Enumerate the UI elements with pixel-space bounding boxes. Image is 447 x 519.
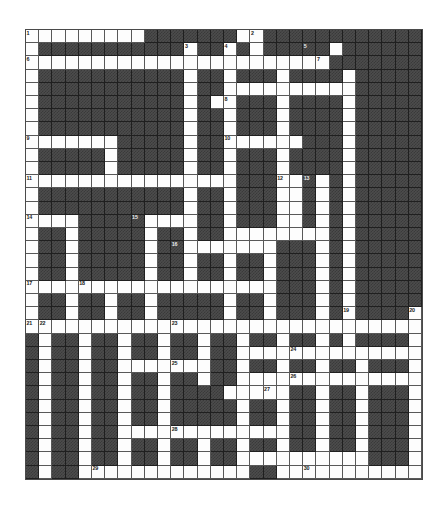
crossword-cell-open[interactable]: 9 [26, 136, 39, 149]
crossword-cell-open[interactable] [145, 426, 158, 439]
crossword-cell-open[interactable] [184, 241, 197, 254]
crossword-cell-open[interactable] [290, 215, 303, 228]
crossword-cell-open[interactable] [277, 70, 290, 83]
crossword-cell-open[interactable] [224, 202, 237, 215]
crossword-cell-open[interactable] [343, 122, 356, 135]
crossword-cell-open[interactable] [277, 334, 290, 347]
crossword-cell-open[interactable] [356, 373, 369, 386]
crossword-cell-open[interactable] [184, 360, 197, 373]
crossword-cell-open[interactable] [66, 307, 79, 320]
crossword-cell-open[interactable] [145, 254, 158, 267]
crossword-cell-open[interactable] [211, 426, 224, 439]
crossword-cell-open[interactable] [264, 254, 277, 267]
crossword-cell-open[interactable] [145, 215, 158, 228]
crossword-cell-open[interactable] [105, 136, 118, 149]
crossword-cell-open[interactable] [184, 466, 197, 479]
crossword-cell-open[interactable] [343, 202, 356, 215]
crossword-cell-open[interactable] [396, 320, 409, 333]
crossword-cell-open[interactable] [237, 56, 250, 69]
crossword-cell-open[interactable] [105, 162, 118, 175]
crossword-cell-open[interactable] [66, 228, 79, 241]
crossword-cell-open[interactable] [224, 254, 237, 267]
crossword-cell-open[interactable] [237, 360, 250, 373]
crossword-cell-open[interactable] [184, 109, 197, 122]
crossword-cell-open[interactable]: 26 [290, 373, 303, 386]
crossword-cell-open[interactable] [224, 320, 237, 333]
crossword-cell-open[interactable] [158, 281, 171, 294]
crossword-cell-open[interactable] [264, 241, 277, 254]
crossword-cell-open[interactable] [316, 334, 329, 347]
crossword-cell-open[interactable] [290, 466, 303, 479]
crossword-cell-open[interactable] [277, 96, 290, 109]
crossword-cell-open[interactable] [343, 83, 356, 96]
crossword-cell-open[interactable] [184, 83, 197, 96]
crossword-cell-open[interactable] [343, 373, 356, 386]
crossword-cell-open[interactable] [316, 241, 329, 254]
crossword-cell-open[interactable]: 8 [224, 96, 237, 109]
crossword-cell-open[interactable] [237, 83, 250, 96]
crossword-cell-open[interactable] [277, 149, 290, 162]
crossword-cell-open[interactable] [105, 466, 118, 479]
crossword-cell-open[interactable] [198, 241, 211, 254]
crossword-cell-open[interactable] [264, 56, 277, 69]
crossword-cell-open[interactable] [237, 30, 250, 43]
crossword-cell-open[interactable] [118, 56, 131, 69]
crossword-cell-open[interactable] [303, 373, 316, 386]
crossword-cell-open[interactable]: 17 [26, 281, 39, 294]
crossword-cell-open[interactable] [171, 175, 184, 188]
crossword-cell-open[interactable] [105, 307, 118, 320]
crossword-cell-open[interactable] [79, 136, 92, 149]
crossword-cell-open[interactable] [250, 281, 263, 294]
crossword-cell-open[interactable] [277, 215, 290, 228]
crossword-cell-open[interactable] [343, 136, 356, 149]
crossword-cell-open[interactable] [66, 268, 79, 281]
crossword-cell-open[interactable]: 10 [224, 136, 237, 149]
crossword-cell-open[interactable] [382, 466, 395, 479]
crossword-cell-open[interactable]: 30 [303, 466, 316, 479]
crossword-cell-open[interactable] [316, 83, 329, 96]
crossword-cell-open[interactable] [158, 215, 171, 228]
crossword-cell-open[interactable] [356, 320, 369, 333]
crossword-cell-open[interactable] [343, 188, 356, 201]
crossword-cell-open[interactable] [290, 228, 303, 241]
crossword-cell-open[interactable] [224, 70, 237, 83]
crossword-cell-open[interactable] [184, 202, 197, 215]
crossword-cell-open[interactable] [211, 281, 224, 294]
crossword-cell-open[interactable] [158, 426, 171, 439]
crossword-cell-open[interactable] [250, 373, 263, 386]
crossword-cell-open[interactable] [356, 439, 369, 452]
crossword-cell-open[interactable] [158, 347, 171, 360]
crossword-cell-open[interactable] [52, 215, 65, 228]
crossword-cell-open[interactable] [145, 56, 158, 69]
crossword-cell-open[interactable] [184, 215, 197, 228]
crossword-cell-open[interactable] [184, 70, 197, 83]
crossword-cell-open[interactable] [198, 175, 211, 188]
crossword-cell-open[interactable] [79, 320, 92, 333]
crossword-grid[interactable]: 1234567891011121314151617181920212223242… [25, 29, 423, 480]
crossword-cell-open[interactable] [277, 347, 290, 360]
crossword-cell-open[interactable] [316, 215, 329, 228]
crossword-cell-open[interactable] [39, 466, 52, 479]
crossword-cell-open[interactable] [409, 452, 422, 465]
crossword-cell-open[interactable] [409, 413, 422, 426]
crossword-cell-open[interactable] [237, 334, 250, 347]
crossword-cell-open[interactable] [343, 347, 356, 360]
crossword-cell-open[interactable] [145, 281, 158, 294]
crossword-cell-open[interactable] [356, 347, 369, 360]
crossword-cell-open[interactable] [118, 466, 131, 479]
crossword-cell-open[interactable] [118, 373, 131, 386]
crossword-cell-open[interactable] [290, 83, 303, 96]
crossword-cell-open[interactable] [409, 320, 422, 333]
crossword-cell-open[interactable] [316, 188, 329, 201]
crossword-cell-open[interactable] [118, 281, 131, 294]
crossword-cell-open[interactable] [52, 30, 65, 43]
crossword-cell-open[interactable] [118, 400, 131, 413]
crossword-cell-open[interactable] [382, 320, 395, 333]
crossword-cell-open[interactable] [198, 466, 211, 479]
crossword-cell-open[interactable] [66, 254, 79, 267]
crossword-cell-open[interactable] [343, 254, 356, 267]
crossword-cell-open[interactable] [198, 360, 211, 373]
crossword-cell-open[interactable] [145, 360, 158, 373]
crossword-cell-open[interactable] [26, 109, 39, 122]
crossword-cell-open[interactable] [52, 281, 65, 294]
